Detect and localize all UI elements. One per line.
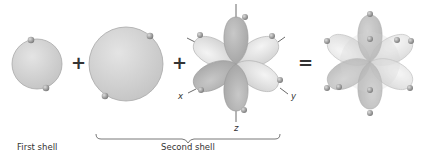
electron — [336, 84, 342, 90]
equals-operator: = — [298, 54, 313, 72]
electron — [367, 87, 373, 93]
electron — [28, 37, 35, 44]
plus-operator: + — [71, 54, 86, 72]
electron — [367, 36, 373, 42]
second-shell-label: Second shell — [161, 142, 215, 152]
electron — [367, 11, 373, 17]
electron — [197, 32, 203, 38]
electron — [241, 107, 247, 113]
electron — [198, 87, 204, 93]
second-shell-2p-orbitals — [187, 4, 288, 122]
electron — [242, 14, 248, 20]
electron — [367, 110, 373, 116]
electron — [277, 77, 283, 83]
electron — [43, 85, 50, 92]
first-shell-label: First shell — [17, 142, 57, 152]
x-axis-label: x — [178, 91, 183, 101]
electron — [269, 33, 275, 39]
electron — [394, 37, 400, 43]
electron — [324, 85, 330, 91]
electron — [407, 85, 413, 91]
electron — [408, 38, 414, 44]
second-shell-2s-orbital — [89, 27, 163, 101]
plus-operator: + — [172, 54, 187, 72]
electron — [324, 38, 330, 44]
z-axis-label: z — [234, 123, 238, 133]
y-axis-label: y — [291, 91, 296, 101]
electron — [147, 33, 154, 40]
combined-orbitals — [323, 11, 418, 116]
first-shell-1s-orbital — [12, 37, 62, 92]
electron-shell-diagram — [0, 0, 424, 163]
electron — [102, 93, 109, 100]
